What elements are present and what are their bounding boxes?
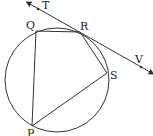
segment-SP xyxy=(32,73,107,126)
segment-PQ xyxy=(32,31,36,126)
label-P: P xyxy=(27,127,35,136)
label-S: S xyxy=(110,69,118,82)
segment-RS xyxy=(80,32,107,73)
geometry-diagram: T Q R S V P xyxy=(0,0,153,136)
label-R: R xyxy=(80,20,89,33)
label-V: V xyxy=(134,53,144,66)
point-V-dot xyxy=(140,66,143,69)
circle xyxy=(5,28,109,132)
point-T-dot xyxy=(37,8,40,11)
label-T: T xyxy=(42,0,50,12)
label-Q: Q xyxy=(26,19,35,32)
tangent-line-TV xyxy=(30,4,150,72)
